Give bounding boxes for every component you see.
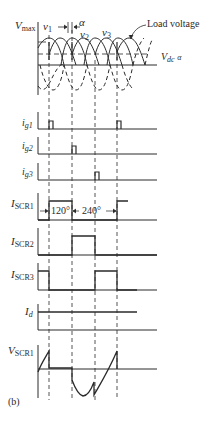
vscr1-label: VSCR1	[8, 345, 34, 356]
ig1-trace	[38, 112, 157, 129]
waveform-diagram	[0, 0, 213, 424]
off-angle-label: 240°	[82, 206, 101, 216]
ig3-label: ig3	[22, 167, 33, 177]
iscr2-label: ISCR2	[11, 236, 34, 247]
vmax-label: Vmax	[15, 20, 36, 31]
panel-label: (b)	[8, 397, 20, 407]
iscr1-label: ISCR1	[11, 198, 34, 209]
vscr1-trace	[38, 345, 157, 398]
top-panel-axes	[38, 22, 157, 95]
ig2-label: ig2	[22, 141, 33, 151]
v1-arrow	[58, 22, 80, 33]
ig2-trace	[38, 137, 157, 154]
conduction-angle-label: 120°	[51, 206, 70, 216]
v1-label: v1	[43, 21, 52, 32]
iscr3-label: ISCR3	[11, 269, 34, 280]
vdc-alpha-label: Vdc α	[161, 52, 181, 62]
id-trace	[38, 304, 157, 330]
iscr2-trace	[38, 228, 157, 255]
load-voltage-label: Load voltage	[147, 19, 199, 29]
v3-label: v3	[102, 27, 111, 38]
load-voltage-arrow	[131, 25, 146, 38]
alpha-label: α	[79, 17, 85, 28]
ig1-label: ig1	[22, 118, 33, 128]
phase-waveforms	[38, 38, 145, 65]
v2-label: v2	[80, 29, 89, 40]
id-label: Id	[25, 306, 33, 317]
ig3-trace	[38, 163, 157, 180]
iscr3-trace	[38, 263, 157, 290]
